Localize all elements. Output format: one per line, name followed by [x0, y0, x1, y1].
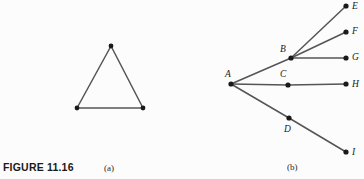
panel-a-vertices: [75, 44, 146, 111]
graph-vertex: [109, 44, 114, 49]
graph-vertex-d: [286, 115, 291, 120]
panel-a-caption: (a): [104, 163, 114, 173]
panel-b-tree-graph: ABCDEFGHI: [224, 1, 360, 157]
graph-vertex-h: [343, 81, 348, 86]
graph-edge: [231, 84, 289, 118]
graph-vertex-b: [288, 55, 293, 60]
graph-vertex: [141, 106, 146, 111]
panel-b-caption: (b): [287, 162, 298, 172]
graph-vertex-e: [343, 3, 348, 8]
graph-edge: [231, 84, 288, 85]
graph-vertex-f: [343, 29, 348, 34]
vertex-label-a: A: [224, 69, 231, 79]
graph-edge: [77, 46, 111, 108]
vertex-label-i: I: [351, 147, 356, 157]
graph-edge: [289, 118, 346, 152]
graph-vertex-a: [228, 81, 233, 86]
figure-number-label: FIGURE 11.16: [3, 161, 74, 173]
vertex-label-h: H: [351, 79, 360, 89]
vertex-label-c: C: [280, 69, 287, 79]
graph-vertex: [75, 106, 80, 111]
graph-vertex-i: [343, 149, 348, 154]
graph-edge: [291, 32, 346, 58]
vertex-label-d: D: [283, 124, 291, 134]
vertex-label-e: E: [351, 1, 358, 11]
vertex-label-f: F: [351, 26, 358, 36]
vertex-label-b: B: [280, 44, 286, 54]
vertex-label-g: G: [352, 52, 359, 62]
graph-edge: [111, 46, 143, 108]
panel-a-edges: [77, 46, 143, 108]
panel-a-triangle-graph: [75, 44, 146, 111]
graph-edge: [288, 84, 346, 85]
figure-container: ABCDEFGHI FIGURE 11.16 (a) (b): [0, 0, 364, 179]
graph-vertex-c: [285, 82, 290, 87]
graph-edge: [291, 6, 346, 58]
figure-graphics: ABCDEFGHI: [0, 0, 364, 179]
graph-vertex-g: [343, 55, 348, 60]
